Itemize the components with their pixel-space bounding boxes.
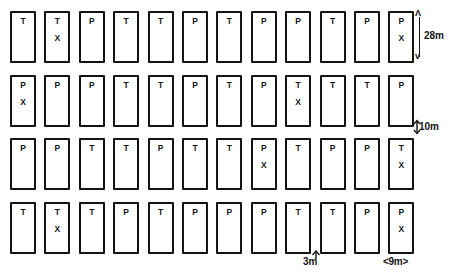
bay-type-label: T (81, 208, 103, 217)
bay-type-label: P (356, 208, 378, 217)
bay-type-label: T (322, 81, 344, 90)
parking-bay[interactable]: P (285, 11, 311, 63)
bay-marker-x: X (390, 225, 412, 234)
parking-bay[interactable]: T (10, 11, 36, 63)
parking-bay[interactable]: P (251, 202, 277, 254)
bay-type-label: T (115, 144, 137, 153)
bay-type-label: P (253, 81, 275, 90)
parking-bay[interactable]: T (216, 138, 242, 190)
parking-bay[interactable]: PX (388, 202, 414, 254)
parking-bay[interactable]: P (216, 202, 242, 254)
parking-bay[interactable]: P (44, 75, 70, 127)
bay-type-label: T (218, 17, 240, 26)
bay-type-label: P (81, 81, 103, 90)
bay-type-label: P (390, 208, 412, 217)
parking-bay[interactable]: P (10, 138, 36, 190)
parking-bay[interactable]: P (182, 202, 208, 254)
parking-bay[interactable]: T (285, 202, 311, 254)
parking-bay[interactable]: T (79, 138, 105, 190)
dimension-label-bay-width: <9m> (383, 257, 408, 267)
bay-type-label: P (253, 17, 275, 26)
bay-marker-x: X (390, 161, 412, 170)
bay-type-label: T (115, 81, 137, 90)
parking-bay[interactable]: T (285, 138, 311, 190)
parking-bay[interactable]: T (354, 75, 380, 127)
bay-marker-x: X (287, 98, 309, 107)
parking-bay[interactable]: T (182, 138, 208, 190)
parking-bay[interactable]: P (79, 75, 105, 127)
parking-bay[interactable]: T (320, 11, 346, 63)
bay-marker-x: X (46, 225, 68, 234)
parking-bay[interactable]: T (79, 202, 105, 254)
bay-type-label: T (12, 17, 34, 26)
bay-type-label: P (46, 144, 68, 153)
parking-bay[interactable]: T (10, 202, 36, 254)
parking-bay[interactable]: P (354, 11, 380, 63)
bay-type-label: P (12, 81, 34, 90)
bay-type-label: P (390, 81, 412, 90)
bay-type-label: P (184, 208, 206, 217)
dimension-arrow-up-icon: Λ (415, 9, 421, 18)
bay-type-label: T (81, 144, 103, 153)
parking-bay[interactable]: T (216, 75, 242, 127)
bay-type-label: P (184, 17, 206, 26)
bay-type-label: P (322, 144, 344, 153)
bay-marker-x: X (46, 34, 68, 43)
parking-bay[interactable]: T (320, 75, 346, 127)
bay-type-label: T (287, 208, 309, 217)
bay-type-label: P (184, 81, 206, 90)
bay-type-label: T (150, 81, 172, 90)
bay-type-label: T (150, 208, 172, 217)
bay-type-label: P (390, 17, 412, 26)
bay-marker-x: X (253, 161, 275, 170)
bay-type-label: T (115, 17, 137, 26)
parking-bay[interactable]: P (182, 75, 208, 127)
parking-bay[interactable]: T (148, 75, 174, 127)
parking-bay[interactable]: P (354, 202, 380, 254)
parking-bay[interactable]: T (113, 138, 139, 190)
parking-bay[interactable]: T (113, 11, 139, 63)
parking-bay[interactable]: P (320, 138, 346, 190)
bay-type-label: T (322, 17, 344, 26)
parking-bay[interactable]: T (113, 75, 139, 127)
bay-type-label: P (46, 81, 68, 90)
parking-bay[interactable]: TX (44, 11, 70, 63)
bay-type-label: P (253, 208, 275, 217)
parking-bay[interactable]: P (79, 11, 105, 63)
parking-bay[interactable]: P (182, 11, 208, 63)
parking-bay[interactable]: T (216, 11, 242, 63)
bay-marker-x: X (12, 98, 34, 107)
parking-bay[interactable]: TX (44, 202, 70, 254)
dimension-arrow-down-icon: v (415, 52, 420, 61)
parking-bay[interactable]: PX (251, 138, 277, 190)
bay-type-label: T (218, 144, 240, 153)
bay-type-label: P (253, 144, 275, 153)
parking-bay[interactable]: T (148, 11, 174, 63)
parking-bay[interactable]: P (251, 75, 277, 127)
parking-bay[interactable]: P (113, 202, 139, 254)
dimension-label-bay-depth: 28m (424, 31, 444, 41)
bay-type-label: T (46, 208, 68, 217)
parking-bay[interactable]: P (251, 11, 277, 63)
bay-type-label: P (218, 208, 240, 217)
parking-bay[interactable]: PX (10, 75, 36, 127)
bay-type-label: T (46, 17, 68, 26)
bay-type-label: P (287, 17, 309, 26)
parking-bay[interactable]: P (148, 138, 174, 190)
bay-type-label: P (12, 144, 34, 153)
parking-bay[interactable]: P (44, 138, 70, 190)
bay-type-label: T (287, 144, 309, 153)
parking-layout-diagram: TTXPTTPTPPTPPXPXPPTTPTPTXTTPPPTTPTTPXTPP… (0, 0, 449, 272)
parking-bay[interactable]: PX (388, 11, 414, 63)
parking-bay[interactable]: P (354, 138, 380, 190)
parking-bay[interactable]: T (148, 202, 174, 254)
parking-bay[interactable]: T (320, 202, 346, 254)
bay-type-label: T (150, 17, 172, 26)
parking-bay[interactable]: TX (388, 138, 414, 190)
bay-type-label: T (390, 144, 412, 153)
bay-type-label: P (356, 144, 378, 153)
dimension-label-column-gap: 3m (303, 257, 317, 267)
parking-bay[interactable]: TX (285, 75, 311, 127)
bay-type-label: P (81, 17, 103, 26)
bay-type-label: T (218, 81, 240, 90)
